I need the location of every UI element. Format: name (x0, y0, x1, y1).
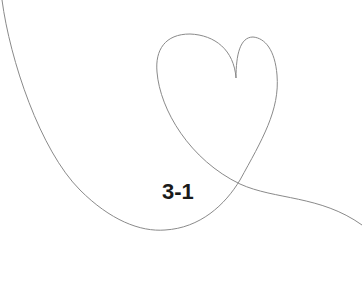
page-number-label: 3-1 (162, 179, 194, 205)
page-canvas: 3-1 (0, 0, 362, 286)
heart-line-drawing-icon (0, 0, 362, 286)
